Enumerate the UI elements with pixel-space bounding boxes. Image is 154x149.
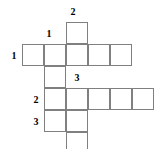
clue-label-down-3: 3 xyxy=(71,72,83,84)
cell-r1-c1[interactable] xyxy=(44,44,66,66)
clue-label-down-1: 1 xyxy=(43,28,55,40)
clue-label-across-2: 2 xyxy=(30,94,42,106)
clue-label-across-3: 3 xyxy=(30,116,42,128)
cell-r3-c5[interactable] xyxy=(132,88,154,110)
clue-label-down-2: 2 xyxy=(67,6,79,18)
cell-r3-c1[interactable] xyxy=(44,88,66,110)
cell-r1-c4[interactable] xyxy=(110,44,132,66)
cell-r2-c1[interactable] xyxy=(44,66,66,88)
cell-r4-c1[interactable] xyxy=(44,110,66,132)
cell-r1-c3[interactable] xyxy=(88,44,110,66)
cell-r3-c2[interactable] xyxy=(66,88,88,110)
cell-r3-c4[interactable] xyxy=(110,88,132,110)
cell-r1-c2[interactable] xyxy=(66,44,88,66)
cell-r3-c3[interactable] xyxy=(88,88,110,110)
cell-r0-c2[interactable] xyxy=(66,22,88,44)
cell-r5-c2[interactable] xyxy=(66,132,88,149)
crossword-puzzle-grid: 211323 xyxy=(0,0,154,149)
cell-r4-c2[interactable] xyxy=(66,110,88,132)
cell-r1-c0[interactable] xyxy=(22,44,44,66)
clue-label-across-1: 1 xyxy=(8,50,20,62)
